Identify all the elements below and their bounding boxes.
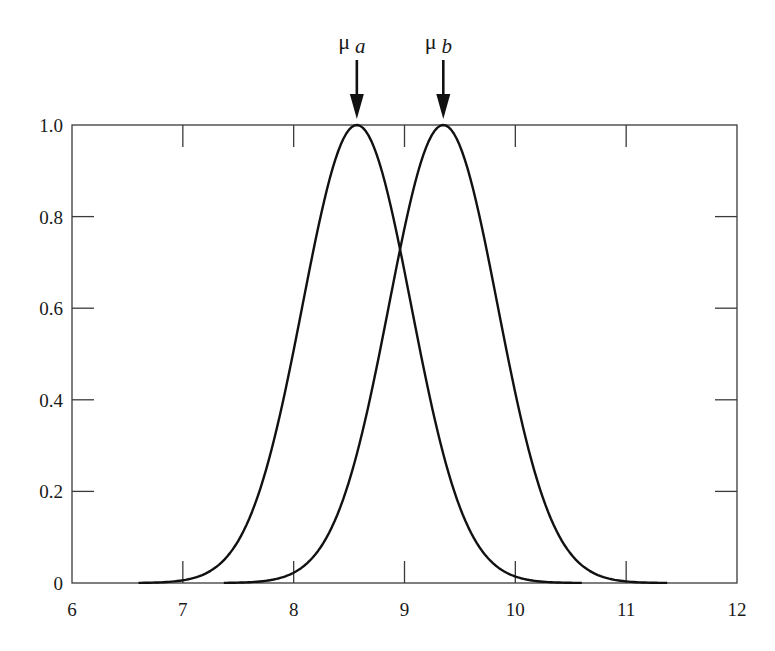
y-tick-label: 0.4 [39,390,63,411]
arrow-down-icon [436,94,450,119]
x-tick-label: 11 [617,599,635,620]
plot-frame [72,125,737,583]
y-tick-label: 0.6 [39,298,63,319]
tick-labels: 678910111200.20.40.60.81.0 [39,115,746,620]
y-tick-label: 0.2 [39,481,63,502]
curves [139,125,668,583]
mu-symbol: μ [425,29,437,54]
annotation-label: μb [425,29,452,58]
mu-symbol: μ [338,29,350,54]
x-tick-label: 10 [506,599,525,620]
x-tick-label: 9 [400,599,410,620]
y-tick-label: 1.0 [39,115,63,136]
annotation-mu-b: μb [425,29,452,119]
chart: 678910111200.20.40.60.81.0 μaμb [0,0,775,651]
mu-subscript: a [355,34,366,58]
x-tick-label: 7 [178,599,188,620]
ticks [72,125,737,583]
y-tick-label: 0 [54,573,64,594]
x-tick-label: 6 [67,599,77,620]
y-tick-label: 0.8 [39,207,63,228]
arrow-down-icon [350,94,364,119]
x-tick-label: 8 [289,599,299,620]
series-b-curve [224,125,667,583]
mu-subscript: b [441,34,452,58]
annotation-label: μa [338,29,365,58]
x-tick-label: 12 [728,599,747,620]
annotation-mu-a: μa [338,29,365,119]
series-a-curve [139,125,582,583]
annotations: μaμb [338,29,452,119]
